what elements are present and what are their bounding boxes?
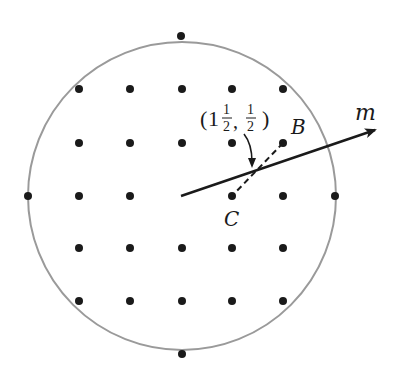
line-m [181, 130, 375, 196]
lattice-dot [75, 297, 83, 305]
label-b: B [290, 115, 306, 139]
lattice-dot [178, 139, 186, 147]
lattice-dot [228, 139, 236, 147]
annotation-open-paren: ( [200, 106, 207, 131]
annotation-frac2-num: 1 [247, 102, 254, 117]
annotation-frac1-den: 2 [223, 119, 230, 134]
lattice-dot [126, 139, 134, 147]
lattice-dot [75, 192, 83, 200]
lattice-dot [178, 85, 186, 93]
annotation-frac2-den: 2 [247, 119, 254, 134]
midpoint-annotation: ( 1 1 2 , 1 2 ) [200, 102, 269, 134]
lattice-dot [279, 192, 287, 200]
circle-bottom-dot [178, 350, 186, 358]
circle-top-dot [177, 32, 185, 40]
lattice-dot [75, 139, 83, 147]
lattice-dot [228, 297, 236, 305]
annotation-frac1-num: 1 [223, 102, 230, 117]
lattice-dot [126, 244, 134, 252]
circle-left-dot [24, 192, 32, 200]
pointer-arrow [244, 134, 252, 162]
lattice-dot [178, 244, 186, 252]
label-c: C [224, 207, 239, 231]
circle-right-dot [331, 192, 339, 200]
lattice-dot [126, 192, 134, 200]
annotation-whole: 1 [208, 106, 219, 131]
lattice-dot [228, 85, 236, 93]
annotation-comma: , [233, 110, 238, 132]
lattice-dot [126, 297, 134, 305]
lattice-dot [75, 85, 83, 93]
lattice-dot [75, 244, 83, 252]
lattice-dot [279, 297, 287, 305]
pointer-arrowhead-icon [248, 158, 256, 168]
lattice-dot [279, 244, 287, 252]
annotation-close-paren: ) [262, 106, 269, 131]
diagram-canvas: m B C ( 1 1 2 , 1 2 ) [0, 0, 399, 383]
lattice-dot [279, 85, 287, 93]
lattice-dot [126, 85, 134, 93]
lattice-dot [178, 297, 186, 305]
lattice-dot [228, 244, 236, 252]
label-m: m [355, 100, 376, 125]
